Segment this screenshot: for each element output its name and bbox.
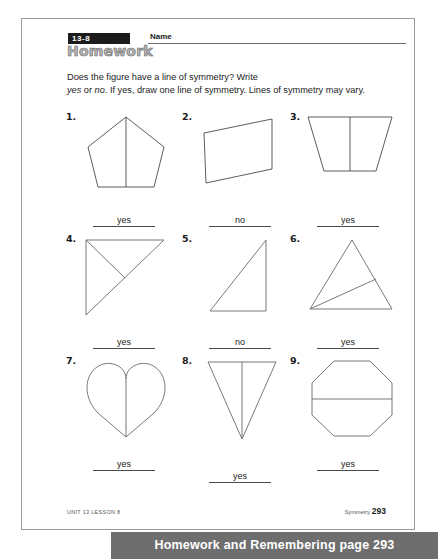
- problem-number: 8.: [182, 355, 192, 366]
- answer-value[interactable]: yes: [298, 459, 398, 469]
- footer-topic-label: Symmetry: [345, 509, 370, 515]
- figure-pentagon: [76, 111, 176, 193]
- figure-scalene-right-triangle: [192, 235, 292, 317]
- answer-blank-line[interactable]: [209, 348, 271, 349]
- worksheet-header: 13-8 Homework Name: [22, 19, 415, 65]
- instructions-no-italic: no: [95, 85, 105, 95]
- problem-number: 5.: [182, 233, 192, 244]
- figure-octagon: [300, 357, 400, 439]
- instructions-yes-italic: yes: [67, 85, 81, 95]
- answer-area: yes: [74, 215, 174, 227]
- problem-row: 7. yes 8.: [22, 355, 415, 477]
- footer-unit-lesson: UNIT 13 LESSON 8: [67, 509, 120, 515]
- problem-number: 7.: [66, 355, 76, 366]
- answer-value[interactable]: no: [190, 215, 290, 225]
- answer-value[interactable]: yes: [74, 459, 174, 469]
- answer-area: yes: [74, 459, 174, 471]
- problem-8: 8. yes: [182, 355, 300, 477]
- page-title: Homework: [67, 43, 153, 59]
- name-write-in-line[interactable]: [148, 43, 406, 44]
- instructions-text: Does the figure have a line of symmetry?…: [67, 71, 407, 97]
- problem-9: 9. yes: [290, 355, 408, 477]
- problem-number: 2.: [182, 111, 192, 122]
- answer-area: yes: [190, 471, 290, 483]
- figure-trapezoid: [300, 111, 400, 193]
- figure-right-triangle-symmetric: [76, 235, 176, 317]
- problem-grid: 1. yes 2.: [22, 111, 415, 477]
- answer-value[interactable]: no: [190, 337, 290, 347]
- worksheet-page: 13-8 Homework Name Does the figure have …: [21, 18, 415, 530]
- problem-number: 6.: [290, 233, 300, 244]
- answer-value[interactable]: yes: [190, 471, 290, 481]
- problem-number: 4.: [66, 233, 76, 244]
- problem-number: 3.: [290, 111, 300, 122]
- answer-blank-line[interactable]: [317, 470, 379, 471]
- answer-blank-line[interactable]: [317, 226, 379, 227]
- answer-blank-line[interactable]: [93, 348, 155, 349]
- answer-area: yes: [298, 337, 398, 349]
- footer-right: Symmetry293: [345, 506, 386, 516]
- figure-triangle-with-line: [300, 235, 400, 317]
- answer-value[interactable]: yes: [74, 337, 174, 347]
- answer-blank-line[interactable]: [317, 348, 379, 349]
- answer-area: yes: [74, 337, 174, 349]
- footer-page-number: 293: [372, 506, 386, 516]
- instructions-line-2-rest: . If yes, draw one line of symmetry. Lin…: [105, 85, 365, 95]
- problem-3: 3. yes: [290, 111, 408, 233]
- problem-row: 4. yes 5.: [22, 233, 415, 355]
- answer-blank-line[interactable]: [209, 226, 271, 227]
- problem-number: 1.: [66, 111, 76, 122]
- problem-2: 2. no: [182, 111, 300, 233]
- answer-area: yes: [298, 459, 398, 471]
- problem-row: 1. yes 2.: [22, 111, 415, 233]
- caption-banner: Homework and Remembering page 293: [111, 532, 438, 559]
- problem-6: 6. yes: [290, 233, 408, 355]
- problem-7: 7. yes: [66, 355, 184, 477]
- answer-area: no: [190, 337, 290, 349]
- instructions-line-1: Does the figure have a line of symmetry?…: [67, 72, 258, 82]
- answer-value[interactable]: yes: [298, 337, 398, 347]
- instructions-or: or: [81, 85, 94, 95]
- answer-area: yes: [298, 215, 398, 227]
- problem-1: 1. yes: [66, 111, 184, 233]
- problem-5: 5. no: [182, 233, 300, 355]
- answer-area: no: [190, 215, 290, 227]
- answer-blank-line[interactable]: [93, 226, 155, 227]
- answer-blank-line[interactable]: [93, 470, 155, 471]
- figure-heart: [76, 357, 176, 439]
- screenshot-canvas: 13-8 Homework Name Does the figure have …: [0, 0, 438, 559]
- answer-blank-line[interactable]: [209, 482, 271, 483]
- name-label: Name: [150, 32, 172, 41]
- problem-number: 9.: [290, 355, 300, 366]
- answer-value[interactable]: yes: [74, 215, 174, 225]
- figure-parallelogram: [192, 111, 292, 193]
- answer-value[interactable]: yes: [298, 215, 398, 225]
- figure-inverted-triangle: [192, 357, 292, 439]
- problem-4: 4. yes: [66, 233, 184, 355]
